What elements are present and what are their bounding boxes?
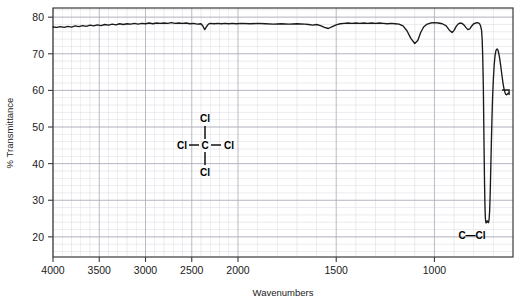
x-tick-label: 1000 bbox=[423, 264, 447, 276]
y-tick-label: 40 bbox=[32, 158, 44, 170]
figure-background bbox=[0, 0, 528, 307]
x-tick-label: 3000 bbox=[134, 264, 158, 276]
y-tick-label: 20 bbox=[32, 231, 44, 243]
x-tick-label: 2500 bbox=[180, 264, 204, 276]
x-tick-label: 3500 bbox=[88, 264, 112, 276]
ir-spectrum-figure: 4000350030002500200015001000 80706050403… bbox=[0, 0, 528, 307]
molecule-atom-center: C bbox=[201, 140, 208, 151]
y-tick-label: 80 bbox=[32, 11, 44, 23]
peak-label-c-cl: C—Cl bbox=[458, 230, 485, 241]
molecule-atom-bottom: Cl bbox=[200, 167, 210, 178]
y-axis-label: % Transmittance bbox=[4, 98, 15, 169]
x-tick-label: 2000 bbox=[226, 264, 250, 276]
spectrum-plot: 4000350030002500200015001000 80706050403… bbox=[0, 0, 528, 307]
x-axis-label: Wavenumbers bbox=[253, 287, 314, 298]
y-tick-label: 30 bbox=[32, 194, 44, 206]
y-tick-label: 60 bbox=[32, 84, 44, 96]
molecule-atom-top: Cl bbox=[200, 113, 210, 124]
y-tick-label: 70 bbox=[32, 48, 44, 60]
y-tick-label: 50 bbox=[32, 121, 44, 133]
molecule-atom-right: Cl bbox=[224, 140, 234, 151]
x-tick-label: 4000 bbox=[41, 264, 65, 276]
x-tick-label: 1500 bbox=[325, 264, 349, 276]
molecule-atom-left: Cl bbox=[177, 140, 187, 151]
